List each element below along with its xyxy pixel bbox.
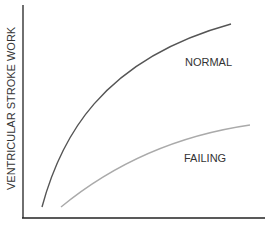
- normal-label: NORMAL: [185, 56, 232, 68]
- y-axis-label: VENTRICULAR STROKE WORK: [5, 26, 17, 190]
- normal-curve: [42, 24, 231, 207]
- chart: NORMAL FAILING VENTRICULAR STROKE WORK: [0, 0, 265, 228]
- failing-label: FAILING: [184, 152, 226, 164]
- failing-curve: [61, 125, 250, 207]
